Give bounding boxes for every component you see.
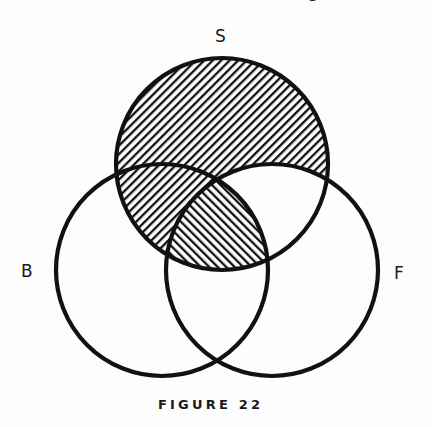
venn-diagram [0, 0, 432, 427]
set-label-s: S [215, 28, 226, 45]
set-label-f: F [394, 265, 404, 282]
figure-caption: FIGURE 22 [158, 398, 263, 411]
set-label-b: B [21, 263, 33, 280]
